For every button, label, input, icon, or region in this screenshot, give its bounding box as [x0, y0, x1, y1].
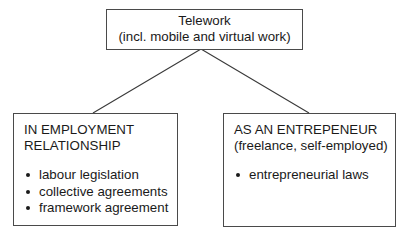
bullet-item: labour legislation [24, 167, 177, 184]
connector-left [93, 49, 201, 113]
root-subtitle: (incl. mobile and virtual work) [107, 29, 302, 45]
node-heading-line2: (freelance, self-employed) [234, 138, 395, 154]
bullet-item: collective agreements [24, 184, 177, 201]
connector-right [201, 49, 309, 113]
node-employment-relationship: IN EMPLOYMENT RELATIONSHIP labour legisl… [13, 113, 178, 226]
root-node-telework: Telework (incl. mobile and virtual work) [106, 9, 303, 50]
bullet-item: framework agreement [24, 200, 177, 217]
root-title: Telework [107, 13, 302, 29]
bullet-list: entrepreneurial laws [234, 167, 395, 184]
node-entrepreneur: AS AN ENTREPENEUR (freelance, self-emplo… [223, 113, 396, 227]
node-heading-line1: AS AN ENTREPENEUR [234, 122, 395, 138]
bullet-item: entrepreneurial laws [234, 167, 395, 184]
node-heading-line1: IN EMPLOYMENT [24, 122, 177, 138]
node-heading-line2: RELATIONSHIP [24, 138, 177, 154]
bullet-list: labour legislation collective agreements… [24, 167, 177, 217]
